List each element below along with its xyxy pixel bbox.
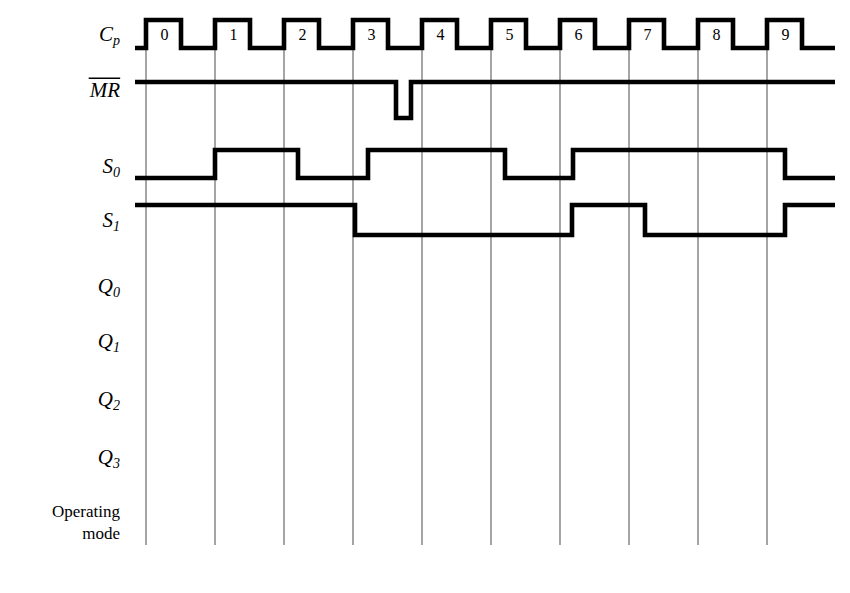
clock-cycle-number-0: 0 (161, 26, 169, 43)
timing-diagram-canvas: 0123456789 CpMRS0S1Q0Q1Q2Q3Operatingmode (0, 0, 850, 593)
clock-cycle-number-6: 6 (575, 26, 583, 43)
operating-mode-label-operating: Operating (52, 502, 120, 521)
clock-cycle-number-9: 9 (782, 26, 790, 43)
clock-cycle-number-2: 2 (299, 26, 307, 43)
clock-cycle-number-3: 3 (368, 26, 376, 43)
signal-label-mr: MR (89, 78, 120, 102)
clock-cycle-number-5: 5 (506, 26, 514, 43)
clock-cycle-number-4: 4 (437, 26, 445, 43)
operating-mode-label-mode: mode (82, 524, 120, 543)
diagram-background (0, 0, 850, 593)
timing-diagram-svg: 0123456789 CpMRS0S1Q0Q1Q2Q3Operatingmode (0, 0, 850, 593)
clock-cycle-number-8: 8 (713, 26, 721, 43)
clock-cycle-number-7: 7 (644, 26, 652, 43)
clock-cycle-number-1: 1 (230, 26, 238, 43)
